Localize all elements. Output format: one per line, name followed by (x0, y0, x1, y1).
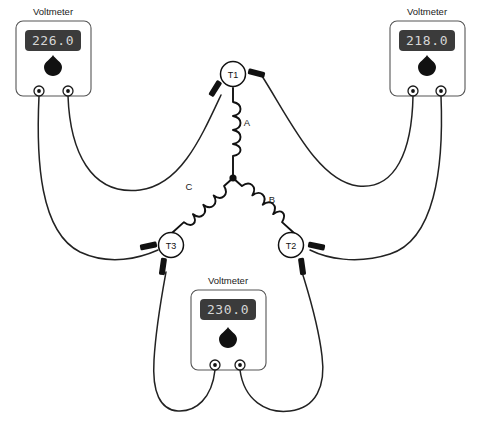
coil-a-label: A (244, 117, 251, 128)
voltmeter-right[interactable]: Voltmeter 218.0 (390, 6, 465, 96)
terminal-t1[interactable]: T1 (221, 62, 246, 87)
clip-icon-t1-left (208, 80, 222, 98)
circuit-diagram-canvas: A B C T1 T2 T3 (0, 0, 477, 432)
voltmeter-bottom-title: Voltmeter (208, 275, 248, 286)
coil-b-winding (171, 178, 238, 240)
voltmeter-bottom-reading: 230.0 (207, 302, 249, 317)
voltmeter-bottom-jack-right[interactable] (235, 360, 245, 370)
coil-a-winding (233, 88, 241, 176)
voltmeter-right-jack-left[interactable] (408, 86, 418, 96)
terminal-t2[interactable]: T2 (279, 233, 304, 258)
voltmeter-left-jack-left[interactable] (34, 86, 44, 96)
voltmeter-bottom-jack-left[interactable] (210, 360, 220, 370)
coil-c-winding (233, 172, 300, 234)
terminal-t3-label: T3 (166, 241, 177, 251)
terminal-t3[interactable]: T3 (159, 233, 184, 258)
voltmeter-bottom[interactable]: Voltmeter 230.0 (191, 275, 266, 370)
voltmeter-left-reading: 226.0 (32, 33, 74, 48)
terminal-t2-label: T2 (286, 241, 297, 251)
wire-leftmeter-to-t3 (38, 96, 158, 260)
wire-rightmeter-to-t2 (310, 96, 441, 260)
terminal-t1-label: T1 (228, 70, 239, 80)
voltmeter-right-title: Voltmeter (407, 6, 447, 17)
clip-icon-t2-bottom (298, 258, 306, 276)
voltmeter-left-title: Voltmeter (33, 6, 73, 17)
voltmeter-left-jack-right[interactable] (63, 86, 73, 96)
voltmeter-right-jack-right[interactable] (436, 86, 446, 96)
voltmeter-left[interactable]: Voltmeter 226.0 (16, 6, 91, 96)
circuit-schematic: A B C T1 T2 T3 (0, 0, 477, 432)
junction-node-icon (229, 174, 236, 181)
wire-leftmeter-to-t1 (68, 95, 221, 191)
voltmeter-right-reading: 218.0 (406, 33, 448, 48)
clip-icon-t3-left (140, 241, 158, 250)
coil-c-label: C (186, 181, 193, 192)
clip-icon-t1-right (248, 68, 266, 78)
